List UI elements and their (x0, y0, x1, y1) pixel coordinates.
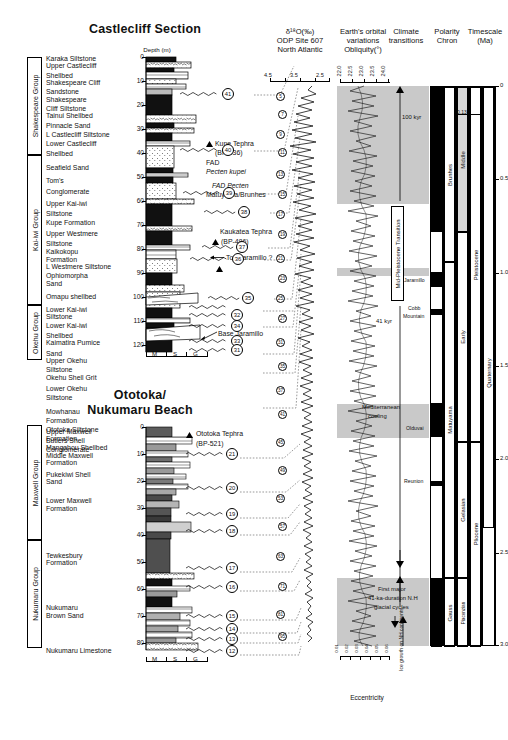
unit-name: Shellbed (46, 332, 128, 339)
cycle-number-17: 17 (226, 562, 238, 574)
epoch-pliocene-label: Pliocene (473, 523, 479, 546)
unit-name: Shakespeare Cliff (46, 79, 128, 86)
obliquity-header: Earth's orbital variations Obliquity(°) (336, 28, 390, 55)
chron-matuyama-label: Matuyama (447, 406, 453, 434)
castlecliff-title: Castlecliff Section (55, 22, 235, 36)
epoch-column: Pleistocene Pliocene (469, 86, 482, 646)
tick (142, 249, 146, 250)
mis-stage-label: 27 (278, 314, 287, 323)
unit-name: Shakespeare (46, 96, 128, 103)
cycle-number-13: 13 (226, 633, 238, 645)
cycle-number-15: 15 (226, 610, 238, 622)
polarity-gauss-normal (431, 578, 442, 647)
unit-name: Siltstone (46, 313, 128, 320)
unit-name: Mangahou Shellbed (46, 444, 136, 451)
chron-matuyama: Matuyama (444, 262, 455, 578)
chron-gauss: Gauss (444, 578, 455, 647)
mis-stage-label: 71 (278, 582, 287, 591)
stage-column: Middle Early Gelasian Piacenzian (456, 86, 469, 646)
group-label-nukumaru: Nukumaru Group (31, 567, 38, 621)
mis-stage-label: 31 (276, 338, 285, 347)
unit-name: Formation (46, 459, 136, 466)
mis-stage-label: 35 (278, 362, 287, 371)
obliquity-tick-label: 22.0 (336, 66, 342, 77)
unit-name: Siltstone (46, 366, 128, 373)
mis-stage-label: 15 (278, 190, 287, 199)
unit-name: Tom's (46, 177, 128, 184)
unit-name: Nukumaru (46, 604, 136, 611)
unit-name: Formation (46, 435, 136, 442)
castlecliff-depth-header: Depth (m) (127, 46, 187, 53)
tick (142, 297, 146, 298)
squiggle-icon (186, 584, 226, 590)
unit-name: Upper Castlecliff (46, 62, 128, 69)
squiggle-icon (186, 528, 226, 534)
mis-stage-label: 45 (276, 438, 285, 447)
group-box-shakespeare: Shakespeare Group (27, 57, 42, 155)
group-box-kaiiwi: Kai-iwi Group (27, 155, 42, 305)
mis-stage-label: 49 (278, 466, 287, 475)
eccentricity-tick-label: 0.01 (334, 644, 339, 653)
tick (142, 345, 146, 346)
unit-name: Siltstone (46, 210, 128, 217)
unit-name: Formation (46, 417, 128, 424)
unit-name: Nukumaru Limestone (46, 647, 136, 654)
arrow-100kyr-icon (394, 86, 406, 201)
tick (142, 321, 146, 322)
obliquity-tick-label: 24.0 (380, 66, 386, 77)
eccentricity-tick-label: 0.05 (374, 644, 379, 653)
mis-stage-label: 63 (276, 552, 285, 561)
chron-name-column: Brunhes Matuyama Gauss (443, 86, 456, 646)
unit-name: Lower Kai-iwi (46, 322, 128, 329)
climate-event-41ka-duration: 41-ka-duration N.H (368, 595, 418, 601)
unit-name: Okehu Shell Grit (46, 374, 128, 381)
isotope-header: δ¹⁸O(‰) ODP Site 607 North Atlantic (264, 28, 336, 55)
group-box-maxwell: Maxwell Group (27, 425, 42, 540)
unit-name: Conglomerate (46, 188, 128, 195)
subchron-reunion-label: Reunion (404, 478, 423, 484)
timescale-tick-label: 2.0 (500, 455, 508, 461)
group-label-kaiiwi: Kai-iwi Group (31, 209, 38, 251)
obliquity-tick-label: 23.0 (358, 66, 364, 77)
unit-name: Lower Maxwell (46, 497, 136, 504)
grainsize-label-m: M (152, 350, 157, 357)
cycle-number-20: 20 (226, 482, 238, 494)
climate-event-41kyr: 41 kyr (376, 318, 392, 324)
climate-transitions-column: 100 kyr Mid-Pleistocene Transition 41 ky… (390, 86, 430, 646)
unit-name: Karaka Siltstone (46, 55, 128, 62)
tick (142, 225, 146, 226)
mis-stage-label: 23 (278, 274, 287, 283)
tick (142, 273, 146, 274)
tick (142, 81, 146, 82)
polarity-olduvai-normal (431, 403, 442, 437)
arrow-pair-icon (394, 550, 406, 610)
tick (142, 177, 146, 178)
polarity-gap-2 (431, 315, 442, 403)
obliquity-axis: 22.0 22.5 23.0 23.5 24.0 (338, 62, 394, 84)
unit-name: Kaimatira Pumice (46, 339, 128, 346)
unit-name: Omapu shellbed (46, 293, 128, 300)
mis-stage-label: 19 (278, 230, 287, 239)
stage-piacenzian-label: Piacenzian (460, 601, 465, 623)
tick (142, 129, 146, 130)
isotope-tick-label: 3.5 (290, 72, 298, 78)
timescale-tick-label: 3.0 (500, 641, 508, 647)
tick (142, 105, 146, 106)
grainsize-label-s: S (173, 350, 177, 357)
unit-name: Formation (46, 505, 136, 512)
eccentricity-tick-label: 0.04 (364, 644, 369, 653)
eccentricity-tick-label: 0.06 (384, 644, 389, 653)
cycle-number-19: 19 (226, 508, 238, 520)
stage-piacenzian: Piacenzian (457, 578, 468, 647)
eccentricity-axis: 0.01 0.02 0.03 0.04 0.05 0.06 (338, 648, 394, 676)
squiggle-icon (186, 511, 226, 517)
obliquity-tick-label: 22.5 (347, 66, 353, 77)
mis-stage-label: 57 (278, 522, 287, 531)
unit-name: Upper Kai-iwi (46, 200, 128, 207)
grainsize-label-s: S (173, 655, 177, 662)
mis-stage-label: 37 (276, 386, 285, 395)
unit-name: Seafield Sand (46, 164, 128, 171)
group-label-okehu: Okehu Group (31, 311, 38, 353)
squiggle-icon (186, 648, 226, 654)
grainsize-label-m: M (152, 655, 157, 662)
